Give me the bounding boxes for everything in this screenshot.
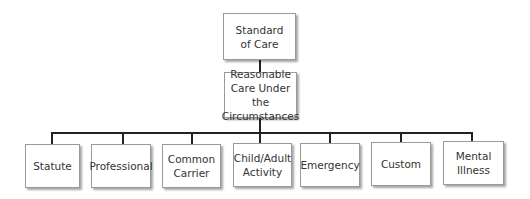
- node-statute: Statute: [25, 144, 80, 188]
- node-label: Standard of Care: [236, 23, 284, 51]
- node-label: Statute: [33, 159, 72, 173]
- node-label: Reasonable Care Under the Circumstances: [222, 67, 299, 123]
- connector-child-1: [122, 132, 124, 144]
- node-reasonable-care: Reasonable Care Under the Circumstances: [224, 72, 297, 118]
- connector-bus: [51, 132, 473, 134]
- node-label: Mental Illness: [456, 149, 492, 177]
- node-standard-of-care: Standard of Care: [223, 13, 296, 60]
- node-label: Child/Adult Activity: [234, 151, 291, 179]
- node-label: Common Carrier: [168, 152, 215, 180]
- node-mental-illness: Mental Illness: [443, 141, 504, 185]
- node-child-adult-activity: Child/Adult Activity: [233, 143, 292, 187]
- node-common-carrier: Common Carrier: [162, 144, 221, 188]
- node-label: Emergency: [300, 158, 359, 172]
- node-label: Custom: [381, 157, 421, 171]
- node-custom: Custom: [371, 142, 431, 186]
- node-emergency: Emergency: [300, 143, 360, 187]
- node-label: Professional: [89, 159, 152, 173]
- connector-child-0: [51, 132, 53, 144]
- connector-child-2: [191, 132, 193, 144]
- node-professional: Professional: [91, 144, 151, 188]
